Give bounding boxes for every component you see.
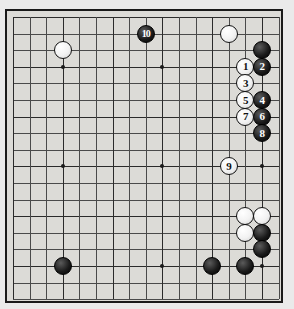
star-point (61, 164, 65, 168)
move-stone-10[interactable]: 10 (137, 25, 155, 43)
move-stone-3[interactable]: 3 (236, 74, 254, 92)
star-point (160, 264, 164, 268)
stone-white[interactable] (253, 207, 271, 225)
move-number: 4 (260, 95, 265, 106)
grid-line-vertical (30, 17, 31, 299)
grid-line-vertical (113, 17, 114, 299)
move-number: 3 (243, 78, 248, 89)
stone-white[interactable] (236, 224, 254, 242)
move-number: 8 (260, 128, 265, 139)
move-number: 7 (243, 111, 248, 122)
stone-white[interactable] (236, 207, 254, 225)
go-diagram-container: 12345678910 (0, 0, 294, 309)
move-stone-8[interactable]: 8 (253, 124, 271, 142)
stone-black[interactable] (236, 257, 254, 275)
move-number: 2 (260, 61, 265, 72)
move-number: 1 (243, 61, 248, 72)
star-point (260, 264, 264, 268)
move-number: 6 (260, 111, 265, 122)
grid-line-vertical (179, 17, 180, 299)
stone-black[interactable] (253, 41, 271, 59)
grid-line-vertical (13, 17, 14, 299)
grid-line-vertical (79, 17, 80, 299)
go-board[interactable]: 12345678910 (5, 9, 283, 303)
move-number: 10 (142, 29, 150, 39)
grid-line-vertical (279, 17, 280, 299)
stone-white[interactable] (220, 25, 238, 43)
stone-black[interactable] (253, 240, 271, 258)
grid-line-vertical (129, 17, 130, 299)
move-stone-1[interactable]: 1 (236, 58, 254, 76)
move-number: 9 (226, 161, 231, 172)
move-stone-5[interactable]: 5 (236, 91, 254, 109)
star-point (260, 164, 264, 168)
stone-black[interactable] (253, 224, 271, 242)
move-stone-7[interactable]: 7 (236, 108, 254, 126)
move-stone-6[interactable]: 6 (253, 108, 271, 126)
star-point (160, 164, 164, 168)
move-stone-2[interactable]: 2 (253, 58, 271, 76)
grid-line-vertical (96, 17, 97, 299)
stone-black[interactable] (54, 257, 72, 275)
move-number: 5 (243, 95, 248, 106)
grid-line-vertical (146, 17, 147, 299)
move-stone-4[interactable]: 4 (253, 91, 271, 109)
star-point (61, 65, 65, 69)
grid-line-vertical (162, 17, 163, 299)
move-stone-9[interactable]: 9 (220, 157, 238, 175)
grid-line-vertical (46, 17, 47, 299)
stone-white[interactable] (54, 41, 72, 59)
star-point (160, 65, 164, 69)
grid-line-vertical (196, 17, 197, 299)
stone-black[interactable] (203, 257, 221, 275)
